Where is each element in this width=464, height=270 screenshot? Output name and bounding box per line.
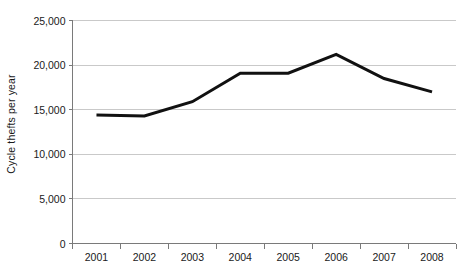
y-tick-label: 20,000 <box>12 59 66 71</box>
y-tick-label: 5,000 <box>12 193 66 205</box>
y-tick-label: 0 <box>12 238 66 250</box>
y-tick-label: 25,000 <box>12 15 66 27</box>
x-axis-ticks <box>73 244 457 249</box>
x-tick-label: 2006 <box>312 251 360 263</box>
y-axis-ticks <box>69 21 73 244</box>
gridlines <box>73 21 457 199</box>
x-tick-label: 2007 <box>360 251 408 263</box>
x-tick-label: 2003 <box>168 251 216 263</box>
x-tick-label: 2002 <box>120 251 168 263</box>
x-tick-label: 2005 <box>264 251 312 263</box>
x-tick-label: 2001 <box>72 251 120 263</box>
x-tick-label: 2004 <box>216 251 264 263</box>
plot-area <box>0 0 464 270</box>
axis-lines <box>73 21 457 244</box>
y-tick-label: 10,000 <box>12 148 66 160</box>
line-chart: Cycle thefts per year 05,00010,00015,000… <box>0 0 464 270</box>
y-tick-label: 15,000 <box>12 104 66 116</box>
data-series-line <box>96 54 432 116</box>
x-tick-label: 2008 <box>408 251 456 263</box>
